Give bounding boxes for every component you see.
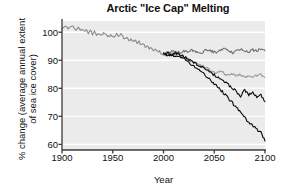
plot-canvas bbox=[0, 0, 281, 191]
chart-figure: Arctic "Ice Cap" Melting % change (avera… bbox=[0, 0, 281, 191]
plot-background bbox=[62, 21, 265, 150]
